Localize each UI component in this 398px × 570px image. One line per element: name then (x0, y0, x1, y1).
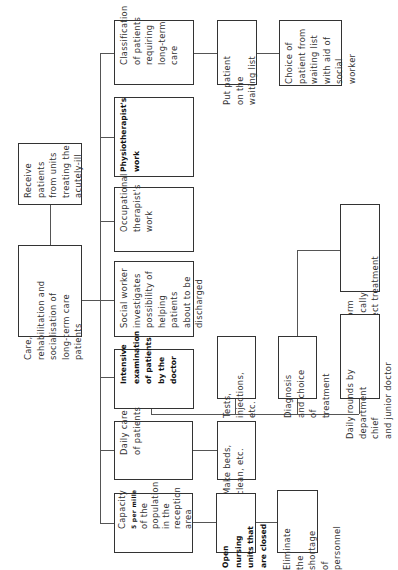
box-choice-of-patient: Choice of patient from waiting list with… (279, 20, 342, 86)
box-capacity: Capacity 5 per mille of the population i… (114, 493, 193, 553)
box-make-beds: Make beds, clean, etc. (217, 421, 256, 480)
connector-opennursing-eliminate (256, 522, 277, 523)
box-label: Tests, injections, etc. (218, 359, 257, 422)
box-label: Occupational therapist's work (115, 171, 195, 236)
box-label: Intensive examination of patients by the… (115, 328, 195, 388)
box-daily-rounds: Daily rounds by department chief and jun… (340, 314, 380, 399)
box-occupational-therapist: Occupational therapist's work (114, 187, 194, 252)
capacity-value: 5 per mille (130, 490, 137, 529)
box-classification: Classification of patients requiring lon… (114, 20, 194, 85)
connector-dailycare-makebeds (193, 450, 217, 451)
connector-spine-dailycare (100, 450, 114, 451)
connector-diagnosis-perform-h (297, 250, 340, 251)
box-label: Receive patients from units treating the… (19, 140, 83, 202)
box-receive-patients: Receive patients from units treating the… (18, 143, 82, 205)
box-label: Capacity 5 per mille of the population i… (115, 473, 194, 533)
box-label: Daily rounds by department chief and jun… (341, 358, 381, 443)
connector-classification-waiting (194, 53, 217, 54)
connector-capacity-opennursing (193, 522, 216, 523)
connector-diagnosis-perform-v (297, 250, 298, 336)
box-physiotherapist: Physiotherapist's work (114, 97, 194, 177)
main-spine (100, 53, 101, 524)
connector-spine-classification (100, 53, 114, 54)
box-perform-treatment: Perform medically correct treatment (340, 204, 380, 292)
connector-receive-care (50, 205, 51, 245)
box-label: Eliminate the shortage of personnel (278, 511, 319, 570)
box-label: Social worker investigates possibility o… (115, 256, 195, 332)
box-label: Open nursing units that are closed (217, 512, 257, 570)
connector-spine-intensive (100, 377, 114, 378)
connector-care-spine (82, 300, 100, 301)
box-eliminate-shortage: Eliminate the shortage of personnel (277, 490, 318, 553)
box-label: Put patient on the waiting list (218, 44, 258, 109)
box-diagnosis: Diagnosis and choice of treatment (278, 336, 317, 399)
box-label: Daily care of patients (115, 400, 194, 459)
box-waiting-list: Put patient on the waiting list (217, 20, 257, 85)
connector-spine-physiotherapist (100, 137, 114, 138)
box-care-rehabilitation: Care, rehabilitation and socialisation o… (18, 245, 82, 337)
box-label: Diagnosis and choice of treatment (279, 359, 318, 422)
connector-waiting-choice (257, 53, 279, 54)
box-label: Physiotherapist's work (115, 96, 195, 176)
box-label: Choice of patient from waiting list with… (280, 22, 343, 88)
box-label: Care, rehabilitation and socialisation o… (19, 272, 83, 364)
capacity-label: Capacity (117, 490, 127, 529)
box-social-worker: Social worker investigates possibility o… (114, 261, 194, 337)
box-tests-injections: Tests, injections, etc. (217, 336, 256, 399)
box-daily-care: Daily care of patients (114, 421, 193, 480)
box-open-nursing-units: Open nursing units that are closed (216, 493, 256, 553)
box-label: Classification of patients requiring lon… (115, 4, 195, 69)
connector-spine-occupational (100, 221, 114, 222)
connector-spine-social (100, 300, 114, 301)
connector-spine-capacity (100, 523, 114, 524)
box-label: Make beds, clean, etc. (218, 440, 257, 499)
capacity-rest: of the population in the reception area (139, 481, 193, 529)
